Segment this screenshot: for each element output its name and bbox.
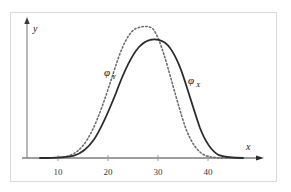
curve-phi-x: [40, 39, 243, 158]
x-axis-label: x: [245, 141, 251, 152]
plot-area: 10 20 30 40 y x φ Y φ X: [0, 0, 291, 192]
x-tick-label-20: 20: [104, 167, 114, 177]
curve-label-phi-x-subscript: X: [195, 81, 201, 89]
curve-label-phi-x: φ: [188, 74, 194, 86]
curve-phi-y-main: [44, 26, 228, 158]
x-tick-label-30: 30: [154, 167, 164, 177]
curve-label-phi-y-subscript: Y: [112, 73, 117, 81]
x-tick-label-40: 40: [204, 167, 214, 177]
curve-label-phi-x-group: φ X: [188, 74, 201, 89]
figure-canvas: 10 20 30 40 y x φ Y φ X: [0, 0, 291, 192]
y-axis: [24, 17, 29, 158]
x-tick-label-10: 10: [54, 167, 64, 177]
curve-label-phi-y: φ: [104, 66, 110, 78]
y-axis-label: y: [32, 23, 38, 34]
